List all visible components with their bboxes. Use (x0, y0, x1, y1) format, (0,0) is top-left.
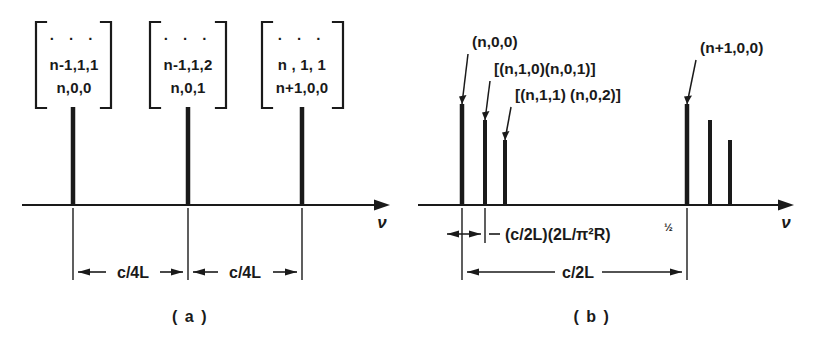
peak-label-b-1: (n,0,0) (472, 33, 518, 50)
dimension-label-b-2: c/2L (562, 264, 594, 281)
dimension-b-1: (c/2L)(2L/π²R) ½ (447, 221, 673, 243)
peak-label-b-2: [(n,1,0)(n,0,1)] (494, 60, 596, 77)
matrix-bracket-1: · · · n-1,1,1 n,0,0 (36, 22, 111, 108)
matrix-dots-2: · · · (164, 30, 212, 47)
figure-canvas: · · · n-1,1,1 n,0,0 · · · n-1,1,2 n,0,1 … (0, 0, 820, 342)
axis-label-a: ν (377, 213, 387, 232)
dimension-b-2: c/2L (467, 264, 682, 281)
panel-b: (n,0,0) [(n,1,0)(n,0,1)] [(n,1,1) (n,0,2… (418, 33, 794, 325)
peak-label-b-4: (n+1,0,0) (700, 39, 763, 56)
dimension-exponent-b-1: ½ (664, 221, 673, 233)
matrix-row-3b: n+1,0,0 (276, 79, 329, 96)
dimension-a-1: c/4L (78, 264, 183, 281)
dimension-a-2: c/4L (193, 264, 297, 281)
dimension-label-b-1: (c/2L)(2L/π²R) (505, 226, 611, 243)
axis-a: ν (22, 200, 390, 233)
matrix-dots-1: · · · (50, 30, 98, 47)
dimension-label-a-2: c/4L (229, 264, 261, 281)
panel-caption-a: ( a ) (172, 308, 208, 325)
matrix-bracket-2: · · · n-1,1,2 n,0,1 (150, 22, 226, 108)
panel-a: · · · n-1,1,1 n,0,0 · · · n-1,1,2 n,0,1 … (22, 22, 390, 325)
spectral-line-figure: · · · n-1,1,1 n,0,0 · · · n-1,1,2 n,0,1 … (0, 0, 820, 342)
dimension-label-a-1: c/4L (117, 264, 149, 281)
matrix-dots-3: · · · (278, 30, 326, 47)
matrix-row-1b: n,0,0 (56, 79, 91, 96)
matrix-row-1a: n-1,1,1 (50, 56, 99, 73)
matrix-row-3a: n , 1, 1 (278, 56, 326, 73)
peak-label-b-3: [(n,1,1) (n,0,2)] (515, 86, 621, 103)
matrix-row-2a: n-1,1,2 (164, 56, 213, 73)
panel-caption-b: ( b ) (574, 308, 611, 325)
matrix-row-2b: n,0,1 (170, 79, 205, 96)
axis-label-b: ν (781, 213, 791, 232)
matrix-bracket-3: · · · n , 1, 1 n+1,0,0 (262, 22, 343, 108)
